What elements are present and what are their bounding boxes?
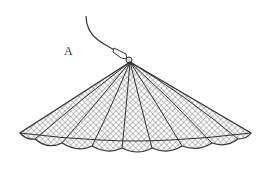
rope <box>86 16 117 52</box>
swivel <box>113 48 127 59</box>
figure: A <box>0 0 270 172</box>
figure-label: A <box>64 44 73 59</box>
cast-net-illustration <box>0 0 270 172</box>
